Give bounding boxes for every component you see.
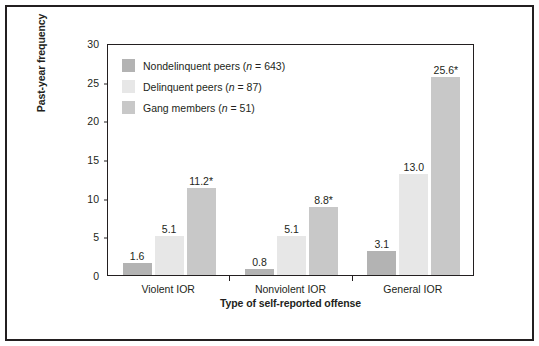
bar-value-label: 5.1 — [162, 223, 177, 235]
bar — [399, 174, 428, 275]
y-axis-tick-label: 0 — [77, 270, 99, 282]
x-axis-group-label: Violent IOR — [141, 283, 195, 295]
bar-value-label: 1.6 — [130, 250, 145, 262]
bar — [431, 77, 460, 275]
bar-value-label: 5.1 — [284, 223, 299, 235]
y-axis-tick-label: 30 — [77, 38, 99, 50]
plot-area: Nondelinquent peers (n = 643)Delinquent … — [107, 44, 474, 276]
bar — [245, 269, 274, 275]
bar — [123, 263, 152, 275]
bar-value-label: 25.6* — [434, 64, 459, 76]
bar — [155, 236, 184, 275]
figure-frame: Nondelinquent peers (n = 643)Delinquent … — [5, 5, 534, 341]
y-axis-tick-label: 10 — [77, 193, 99, 205]
x-axis-separator-tick — [352, 276, 353, 281]
x-axis-title: Type of self-reported offense — [107, 297, 474, 309]
y-axis-tick-label: 20 — [77, 115, 99, 127]
bar — [309, 207, 338, 275]
bar-value-label: 13.0 — [404, 161, 424, 173]
bars-container: 1.65.111.2*0.85.18.8*3.113.025.6* — [108, 45, 473, 275]
bar-value-label: 8.8* — [314, 194, 333, 206]
bar — [367, 251, 396, 275]
x-axis-separator-tick — [229, 276, 230, 281]
bar — [187, 188, 216, 275]
x-axis-group-label: General IOR — [383, 283, 442, 295]
bar — [277, 236, 306, 275]
y-axis-title: Past-year frequency — [35, 0, 47, 153]
x-axis-group-label: Nonviolent IOR — [255, 283, 326, 295]
y-axis-tick-label: 25 — [77, 77, 99, 89]
y-axis-tick-label: 5 — [77, 231, 99, 243]
y-axis-tick-label: 15 — [77, 154, 99, 166]
bar-value-label: 11.2* — [189, 175, 213, 187]
bar-value-label: 3.1 — [375, 238, 390, 250]
bar-value-label: 0.8 — [252, 256, 267, 268]
